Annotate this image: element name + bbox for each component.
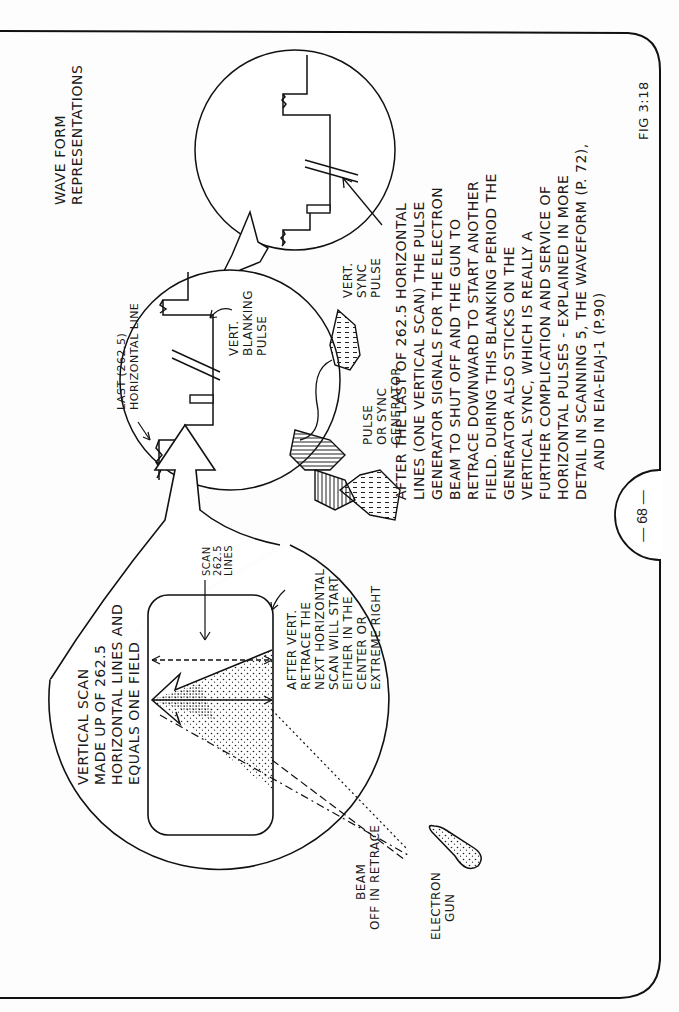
waveform-title: WAVE FORM REPRESENTATIONS bbox=[52, 65, 85, 205]
svg-text:OFF IN RETRACE: OFF IN RETRACE bbox=[368, 825, 382, 930]
svg-text:GUN: GUN bbox=[443, 893, 457, 922]
svg-text:CENTER OR: CENTER OR bbox=[355, 616, 369, 690]
diagram-page: — 68 — bbox=[0, 0, 679, 1012]
svg-text:BEAM: BEAM bbox=[354, 864, 368, 900]
vert-sync-pulse-label: VERT. SYNC PULSE bbox=[341, 258, 383, 298]
svg-text:BLANKING: BLANKING bbox=[241, 290, 255, 356]
svg-text:VERT.: VERT. bbox=[227, 321, 241, 356]
svg-text:RETRACE THE: RETRACE THE bbox=[299, 602, 313, 690]
svg-text:SYNC: SYNC bbox=[355, 264, 369, 298]
svg-text:VERT.: VERT. bbox=[341, 263, 355, 298]
svg-text:GENERATOR SIGNALS FOR THE ELEC: GENERATOR SIGNALS FOR THE ELECTRON bbox=[429, 187, 445, 500]
svg-text:262.5: 262.5 bbox=[212, 545, 223, 576]
page-number-tab: — 68 — bbox=[615, 470, 662, 560]
svg-text:HORIZONTAL LINES AND: HORIZONTAL LINES AND bbox=[109, 604, 125, 785]
svg-text:REPRESENTATIONS: REPRESENTATIONS bbox=[69, 65, 85, 205]
svg-text:LINES: LINES bbox=[223, 545, 234, 576]
vert-sync-waveform-circle bbox=[195, 50, 395, 250]
svg-text:VERTICAL SYNC, WHICH IS REALLY: VERTICAL SYNC, WHICH IS REALLY A bbox=[519, 231, 535, 500]
last-horizontal-line-label: LAST (262.5) HORIZONTAL LINE bbox=[115, 303, 141, 410]
svg-text:FIELD. DURING THIS BLANKING PE: FIELD. DURING THIS BLANKING PERIOD THE bbox=[483, 173, 499, 500]
svg-text:AFTER THE LAST OF 262.5 HORIZO: AFTER THE LAST OF 262.5 HORIZONTAL bbox=[393, 203, 409, 500]
svg-text:OR SYNC: OR SYNC bbox=[375, 388, 389, 445]
svg-text:SCAN: SCAN bbox=[201, 546, 212, 576]
svg-text:HORIZONTAL LINE: HORIZONTAL LINE bbox=[128, 303, 141, 410]
svg-text:NEXT HORIZONTAL: NEXT HORIZONTAL bbox=[313, 569, 327, 691]
beam-off-label: BEAM OFF IN RETRACE bbox=[354, 825, 382, 930]
figure-label: FIG 3:18 bbox=[636, 81, 651, 140]
svg-text:SCAN WILL START: SCAN WILL START bbox=[327, 576, 341, 690]
svg-text:ELECTRON: ELECTRON bbox=[429, 872, 443, 940]
svg-text:MADE UP OF 262.5: MADE UP OF 262.5 bbox=[92, 645, 108, 785]
svg-text:AFTER VERT.: AFTER VERT. bbox=[285, 610, 299, 690]
svg-text:EITHER IN THE: EITHER IN THE bbox=[341, 596, 355, 690]
svg-text:HORIZONTAL PULSES - EXPLAINED: HORIZONTAL PULSES - EXPLAINED IN MORE bbox=[555, 175, 571, 500]
svg-text:VERTICAL SCAN: VERTICAL SCAN bbox=[75, 668, 91, 785]
svg-text:PULSE: PULSE bbox=[255, 316, 269, 356]
svg-text:FURTHER COMPLICATION AND SERVI: FURTHER COMPLICATION AND SERVICE OF bbox=[537, 185, 553, 500]
svg-text:PULSE: PULSE bbox=[361, 405, 375, 445]
electron-gun-label: ELECTRON GUN bbox=[429, 872, 457, 940]
svg-text:LAST (262.5): LAST (262.5) bbox=[115, 333, 128, 410]
explanation-text: AFTER THE LAST OF 262.5 HORIZONTAL LINES… bbox=[393, 143, 607, 500]
electron-gun-icon bbox=[429, 826, 481, 869]
svg-text:PULSE: PULSE bbox=[369, 258, 383, 298]
svg-text:DETAIL IN SCANNING 5, THE WAVE: DETAIL IN SCANNING 5, THE WAVEFORM (P. 7… bbox=[573, 143, 589, 500]
svg-text:LINES (ONE VERTICAL SCAN) THE: LINES (ONE VERTICAL SCAN) THE PULSE bbox=[411, 201, 427, 500]
svg-text:BEAM TO SHUT OFF AND THE GUN T: BEAM TO SHUT OFF AND THE GUN TO bbox=[447, 218, 463, 500]
svg-text:EQUALS ONE FIELD: EQUALS ONE FIELD bbox=[126, 642, 142, 785]
svg-text:AND IN EIA-EIAJ-1 (P.90): AND IN EIA-EIAJ-1 (P.90) bbox=[591, 292, 607, 470]
scan-lines-label: SCAN 262.5 LINES bbox=[201, 545, 234, 576]
svg-text:GENERATOR ALSO STICKS ON THE: GENERATOR ALSO STICKS ON THE bbox=[501, 246, 517, 500]
svg-text:EXTREME RIGHT: EXTREME RIGHT bbox=[369, 585, 383, 690]
svg-text:WAVE FORM: WAVE FORM bbox=[52, 115, 68, 205]
svg-text:RETRACE DOWNWARD TO START ANOT: RETRACE DOWNWARD TO START ANOTHER bbox=[465, 181, 481, 500]
page-number: — 68 — bbox=[634, 490, 650, 541]
diagram-canvas: — 68 — bbox=[0, 0, 679, 1012]
